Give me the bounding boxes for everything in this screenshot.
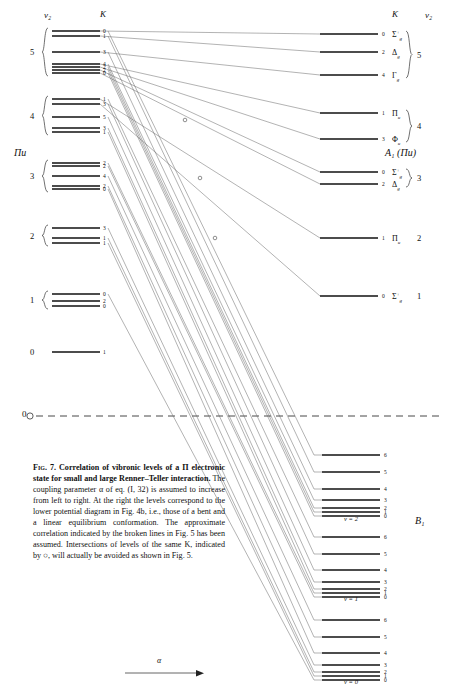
right-level-term-symbol: Σ+g: [392, 30, 402, 41]
left-group-v2-label: 1: [30, 295, 34, 305]
lower-state-label: B₁: [415, 516, 425, 526]
left-group-v2-label: 2: [30, 231, 34, 241]
correlation-line-lower: [108, 73, 314, 516]
right-group-v2-label: 5: [417, 50, 421, 60]
left-level-K-label: 3: [103, 225, 106, 231]
header-right-K: K: [392, 10, 398, 19]
right-group-v2-label: 4: [417, 121, 422, 131]
right-level-K-label: 0: [382, 31, 385, 37]
zero-baseline-circle-icon: [27, 413, 33, 419]
left-levels: [52, 31, 100, 352]
left-level-K-label: 1: [103, 349, 106, 355]
lower-level-K-label: 0: [384, 594, 387, 600]
term-subscript: g: [399, 298, 402, 303]
right-level-K-label: 0: [382, 169, 385, 175]
correlation-line-lower: [108, 228, 314, 665]
left-level-K-label: 0: [103, 186, 106, 192]
avoided-crossing-circle-icon: [213, 236, 217, 240]
left-level-K-label: 5: [103, 114, 106, 120]
header-right-v2: v₂: [425, 11, 432, 20]
right-group-v2-label: 1: [417, 291, 421, 301]
left-level-K-label: 1: [103, 33, 106, 39]
right-level-term-symbol: Σ+g: [392, 292, 402, 303]
avoided-crossing-circle-icon: [198, 176, 202, 180]
correlation-line: [100, 36, 320, 52]
caption-body: The coupling parameter α of eq. (I, 32) …: [33, 474, 225, 560]
left-brace: [42, 96, 48, 135]
right-level-term-symbol: Δg: [392, 180, 400, 191]
lower-level-K-label: 4: [384, 567, 387, 573]
right-level-K-label: 1: [382, 235, 385, 241]
header-left-K: K: [100, 10, 106, 19]
lower-group-v-label: v = 2: [344, 515, 359, 522]
right-level-K-label: 4: [382, 72, 385, 78]
left-brace: [42, 28, 48, 76]
lower-level-K-label: 3: [384, 497, 387, 503]
caption-bold: Correlation of vibronic levels of a Π el…: [33, 463, 225, 483]
correlation-line-lower: [108, 67, 314, 508]
lower-level-K-label: 0: [384, 677, 387, 683]
correlation-diagram: 0134220513531422420331120201100Σ+g2Δg4Γg…: [0, 0, 460, 695]
term-superscript: +: [397, 30, 400, 35]
right-level-term-symbol: Σ+g: [392, 168, 402, 179]
left-group-v2-label: 0: [30, 347, 34, 357]
left-brace: [42, 225, 48, 246]
figure-caption: Fig. 7. Correlation of vibronic levels o…: [33, 462, 225, 561]
header-left-v2: v₂: [44, 11, 51, 20]
left-level-K-label: 1: [103, 240, 106, 246]
right-brace: [406, 31, 412, 78]
correlation-line-lower: [108, 238, 314, 672]
lower-level-K-label: 3: [384, 662, 387, 668]
lower-level-K-label: 0: [384, 513, 387, 519]
left-level-K-label: 0: [103, 303, 106, 309]
left-group-v2-label: 4: [30, 111, 35, 121]
lower-level-K-label: 5: [384, 551, 387, 557]
correlation-lines: [100, 31, 322, 680]
right-state-label: A₁ (Πu): [385, 148, 416, 158]
caption-fig-label: Fig. 7.: [33, 463, 56, 472]
left-brace: [42, 160, 48, 192]
right-level-term-symbol: Πu: [392, 234, 401, 245]
left-level-K-label: 3: [103, 49, 106, 55]
alpha-axis-label: α: [157, 657, 161, 665]
left-group-v2-label: 5: [30, 47, 34, 57]
lower-level-K-label: 3: [384, 579, 387, 585]
svg-text-layer: 0134220513531422420331120201100Σ+g2Δg4Γg…: [30, 28, 422, 685]
right-level-K-label: 1: [382, 110, 385, 116]
term-subscript: g: [397, 77, 400, 82]
term-subscript: u: [398, 240, 401, 245]
term-superscript: +: [397, 168, 400, 173]
left-level-K-label: 1: [103, 129, 106, 135]
right-level-term-symbol: Πu: [392, 109, 401, 120]
zero-baseline-group: [27, 413, 440, 419]
correlation-line-lower: [108, 189, 314, 653]
left-state-label: Πu: [14, 148, 26, 158]
term-subscript: g: [397, 186, 400, 191]
left-level-K-label: 0: [103, 291, 106, 297]
lower-level-K-label: 6: [384, 452, 387, 458]
correlation-line-lower: [108, 52, 314, 489]
lower-level-K-label: 6: [384, 534, 387, 540]
alpha-axis: [125, 670, 204, 676]
lower-group-v-label: v = 1: [344, 595, 358, 602]
right-level-K-label: 0: [382, 293, 385, 299]
right-level-term-symbol: Φu: [392, 135, 401, 146]
baseline-zero-label: 0: [22, 410, 27, 419]
lower-level-K-label: 4: [384, 650, 387, 656]
correlation-line-lower: [108, 70, 314, 512]
left-level-K-label: 4: [103, 173, 106, 179]
right-level-K-label: 2: [382, 181, 385, 187]
term-subscript: u: [398, 115, 401, 120]
correlation-line: [100, 67, 320, 139]
right-levels: [320, 34, 378, 296]
term-subscript: g: [399, 174, 402, 179]
right-level-K-label: 2: [382, 49, 385, 55]
correlation-line-lower: [108, 64, 314, 500]
lower-level-K-label: 5: [384, 634, 387, 640]
lower-level-K-label: 4: [384, 486, 387, 492]
alpha-arrow-icon: [196, 670, 204, 676]
right-group-v2-label: 3: [417, 173, 421, 183]
right-level-K-label: 3: [382, 136, 385, 142]
left-level-K-label: 2: [103, 163, 106, 169]
right-brace: [406, 110, 412, 142]
